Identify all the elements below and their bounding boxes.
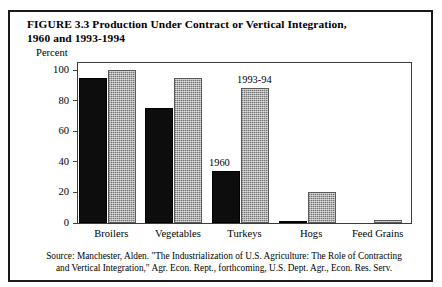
chart-plot-area: 020406080100BroilersVegetables19601993-9… (77, 62, 412, 224)
x-axis-label-broilers: Broilers (78, 228, 145, 240)
bar-turkeys-1993-94 (241, 88, 269, 223)
figure-title-line-2: 1960 and 1993-1994 (27, 31, 417, 45)
bar-group: 19601993-94Turkeys (211, 63, 278, 223)
bar-hogs-1993-94 (308, 192, 336, 223)
y-axis-label: 40 (43, 157, 69, 167)
series-annotation-1993-94: 1993-94 (237, 74, 272, 85)
bar-feed-grains-1993-94 (374, 220, 402, 223)
series-annotation-1960: 1960 (209, 157, 230, 168)
bar-vegetables-1960 (145, 108, 173, 223)
y-axis-label: 80 (43, 96, 69, 106)
x-axis-label-turkeys: Turkeys (211, 228, 278, 240)
bar-group: Vegetables (145, 63, 212, 223)
x-axis-label-vegetables: Vegetables (145, 228, 212, 240)
bar-broilers-1993-94 (108, 70, 136, 223)
source-note-line-1: Source: Manchester, Alden. "The Industri… (46, 251, 402, 261)
bar-turkeys-1960 (212, 171, 240, 223)
bar-vegetables-1993-94 (174, 78, 202, 223)
figure-title-line-1: FIGURE 3.3 Production Under Contract or … (27, 18, 347, 30)
figure-container: FIGURE 3.3 Production Under Contract or … (8, 10, 433, 282)
bar-group: Hogs (278, 63, 345, 223)
source-note-line-2: and Vertical Integration," Agr. Econ. Re… (24, 262, 424, 274)
y-axis-label: 20 (43, 187, 69, 197)
figure-title: FIGURE 3.3 Production Under Contract or … (27, 17, 417, 45)
y-axis-label: 0 (43, 218, 69, 228)
chart-bars-layer: 020406080100BroilersVegetables19601993-9… (78, 63, 411, 223)
bar-group: Broilers (78, 63, 145, 223)
y-axis-label: 60 (43, 126, 69, 136)
bar-group: Feed Grains (344, 63, 411, 223)
x-axis-label-feed-grains: Feed Grains (344, 228, 411, 240)
bar-broilers-1960 (79, 78, 107, 223)
y-axis-label: 100 (43, 65, 69, 75)
y-axis-title: Percent (36, 47, 68, 59)
source-note: Source: Manchester, Alden. "The Industri… (24, 250, 424, 274)
x-axis-label-hogs: Hogs (278, 228, 345, 240)
bar-hogs-1960 (279, 221, 307, 223)
